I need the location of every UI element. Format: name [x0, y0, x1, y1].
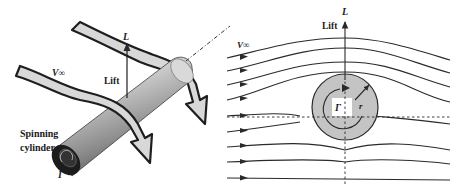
lift-symbol: L — [122, 31, 129, 42]
freestream-velocity-label: V∞ — [52, 68, 65, 78]
cylinder-label-line1: Spinning — [20, 128, 58, 139]
right-panel-cross-section: L Lift V∞ Γ r — [227, 6, 450, 184]
lift-symbol: L — [341, 6, 348, 17]
left-panel-3d: L Lift V∞ Spinning cylinder Γ — [16, 22, 207, 181]
magnus-effect-diagram: L Lift V∞ Spinning cylinder Γ — [0, 0, 465, 193]
radius-symbol: r — [359, 101, 363, 111]
freestream-velocity-label: V∞ — [237, 40, 249, 50]
circulation-symbol-right: Γ — [334, 102, 342, 113]
connector-line — [186, 26, 230, 61]
cylinder-label-line2: cylinder — [20, 142, 56, 153]
circulation-symbol-left: Γ — [57, 169, 65, 180]
lift-label: Lift — [104, 76, 120, 86]
lift-label: Lift — [322, 21, 338, 31]
